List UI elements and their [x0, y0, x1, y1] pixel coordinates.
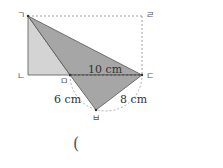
vertex-label-r: ㄹ: [146, 10, 154, 20]
measurement-md: 10 cm: [88, 63, 123, 76]
geometry-figure: ㄱ ㄴ ㅁ ㄷ ㄹ ㅂ 10 cm 6 cm 8 cm: [0, 0, 223, 168]
vertex-dot-d: [141, 74, 143, 76]
measurement-mb: 6 cm: [54, 93, 82, 106]
answer-open-paren: (: [73, 134, 79, 153]
measurement-bd: 8 cm: [120, 93, 148, 106]
vertex-dot-m: [69, 74, 71, 76]
vertex-label-m: ㅁ: [60, 76, 68, 86]
vertex-label-n: ㄴ: [17, 71, 25, 81]
vertex-label-d: ㄷ: [146, 71, 154, 81]
vertex-dot-g: [27, 15, 29, 17]
vertex-label-b: ㅂ: [92, 113, 100, 123]
vertex-dot-b: [95, 109, 97, 111]
vertex-label-g: ㄱ: [17, 10, 25, 20]
